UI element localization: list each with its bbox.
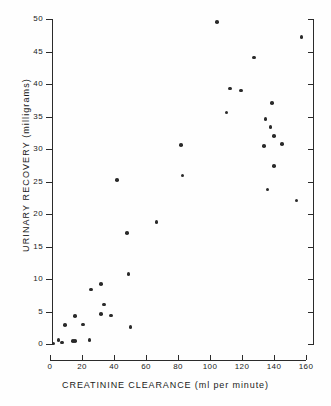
x-axis-tick-label: 120 <box>230 362 254 371</box>
data-point <box>73 339 77 343</box>
x-axis-tick <box>210 355 211 360</box>
y-axis-tick-label: 40 <box>33 79 43 88</box>
data-point <box>115 178 119 182</box>
x-axis-tick-label: 140 <box>262 362 286 371</box>
y-axis-tick-label: 0 <box>38 339 43 348</box>
data-point <box>252 56 256 60</box>
x-axis-tick-label: 80 <box>166 362 190 371</box>
data-point <box>280 142 284 146</box>
data-point <box>179 143 183 147</box>
data-point <box>266 188 270 192</box>
y-axis-tick-label: 45 <box>33 47 43 56</box>
data-point <box>73 314 77 318</box>
x-axis-tick-label: 40 <box>102 362 126 371</box>
data-point <box>89 288 93 292</box>
y-axis-tick-label: 15 <box>33 242 43 251</box>
x-axis-tick <box>82 355 83 360</box>
data-point <box>215 20 219 24</box>
y-axis-tick-label: 25 <box>33 177 43 186</box>
data-point <box>155 220 159 224</box>
data-point <box>270 101 274 105</box>
x-axis-tick-label: 100 <box>198 362 222 371</box>
data-point <box>109 314 113 318</box>
x-axis-tick-label: 60 <box>134 362 158 371</box>
y-axis-tick-label: 30 <box>33 144 43 153</box>
data-point <box>269 125 273 129</box>
scatter-plot-figure: 05101520253035404550 0204060801001201401… <box>0 0 331 406</box>
plot-area <box>52 19 314 345</box>
x-axis-tick <box>242 355 243 360</box>
y-axis-tick-label: 50 <box>33 14 43 23</box>
x-axis-tick-label: 0 <box>38 362 62 371</box>
x-axis-tick <box>146 355 147 360</box>
x-axis-tick <box>178 355 179 360</box>
x-axis-tick-label: 160 <box>294 362 318 371</box>
data-point <box>81 323 85 327</box>
data-point <box>228 87 232 91</box>
y-axis-tick-label: 5 <box>38 307 43 316</box>
data-point <box>102 303 106 307</box>
y-axis-title: URINARY RECOVERY (milligrams) <box>21 55 31 275</box>
data-point <box>63 323 67 327</box>
data-point <box>99 282 103 286</box>
x-axis-tick <box>50 355 51 360</box>
y-axis-tick-label: 10 <box>33 274 43 283</box>
data-point <box>272 164 276 168</box>
data-point <box>272 134 276 138</box>
data-point <box>129 325 133 329</box>
data-point <box>99 312 103 316</box>
x-axis-tick <box>114 355 115 360</box>
x-axis-tick <box>306 355 307 360</box>
x-axis-tick-label: 20 <box>70 362 94 371</box>
x-axis-title: CREATININE CLEARANCE (ml per minute) <box>0 380 331 390</box>
x-axis-tick <box>274 355 275 360</box>
data-point <box>262 144 266 148</box>
y-axis-tick-label: 20 <box>33 209 43 218</box>
data-point <box>125 231 129 235</box>
y-axis-tick-label: 35 <box>33 112 43 121</box>
x-axis-line <box>50 360 306 361</box>
